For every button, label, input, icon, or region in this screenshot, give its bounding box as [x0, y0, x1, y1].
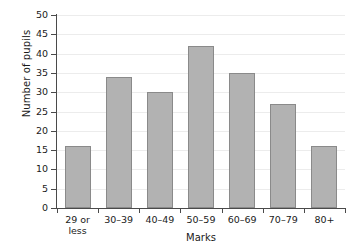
y-axis-tick [51, 208, 56, 209]
bar [147, 92, 173, 208]
x-axis-category-line: 70–79 [263, 214, 304, 225]
x-axis-tick [263, 209, 264, 213]
y-axis-tick [51, 189, 56, 190]
y-axis-tick-label: 50 [22, 10, 48, 20]
y-axis-tick [51, 131, 56, 132]
x-axis-category-label: 80+ [304, 214, 345, 225]
y-axis-tick-label: 45 [22, 29, 48, 39]
x-axis-category-line: 40–49 [139, 214, 180, 225]
bar [106, 77, 132, 208]
y-axis-tick [51, 169, 56, 170]
x-axis-category-line: 30–39 [98, 214, 139, 225]
y-axis-tick [51, 150, 56, 151]
y-axis-tick-label: 25 [22, 107, 48, 117]
x-axis-category-label: 60–69 [222, 214, 263, 225]
x-axis-tick [304, 209, 305, 213]
x-axis-category-line: 80+ [304, 214, 345, 225]
bar [229, 73, 255, 208]
x-axis-tick [98, 209, 99, 213]
y-axis-tick [51, 15, 56, 16]
y-axis-tick-label: 40 [22, 49, 48, 59]
bar-series [57, 15, 345, 208]
x-axis-category-label: 40–49 [139, 214, 180, 225]
x-axis-line [56, 208, 346, 209]
x-axis-tick [180, 209, 181, 213]
y-axis-tick-label: 0 [22, 203, 48, 213]
x-axis-category-label: 70–79 [263, 214, 304, 225]
bar [65, 146, 91, 208]
x-axis-tick [345, 209, 346, 213]
y-axis-tick [51, 34, 56, 35]
x-axis-category-line: 29 or [57, 214, 98, 225]
bar [270, 104, 296, 208]
y-axis-tick-label: 35 [22, 68, 48, 78]
y-axis-tick-label: 30 [22, 87, 48, 97]
y-axis-tick [51, 92, 56, 93]
y-axis-tick [51, 112, 56, 113]
x-axis-category-line: 50–59 [180, 214, 221, 225]
y-axis-tick [51, 54, 56, 55]
x-axis-category-label: 50–59 [180, 214, 221, 225]
bar-chart: Number of pupils 05101520253035404550 29… [0, 0, 351, 251]
x-axis-tick [222, 209, 223, 213]
bar [311, 146, 337, 208]
x-axis-tick [139, 209, 140, 213]
y-axis-tick-label: 15 [22, 145, 48, 155]
x-axis-title: Marks [56, 232, 346, 243]
bar [188, 46, 214, 208]
y-axis-tick-label: 10 [22, 164, 48, 174]
y-axis-tick-label: 20 [22, 126, 48, 136]
x-axis-category-line: 60–69 [222, 214, 263, 225]
y-axis-tick-label: 5 [22, 184, 48, 194]
x-axis-tick [57, 209, 58, 213]
y-axis-tick [51, 73, 56, 74]
x-axis-category-label: 30–39 [98, 214, 139, 225]
